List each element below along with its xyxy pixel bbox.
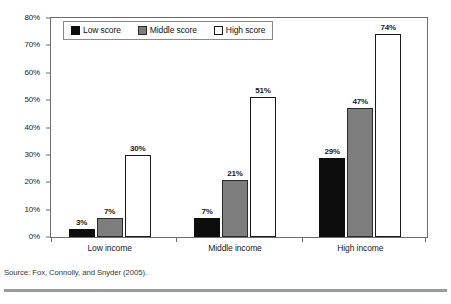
bar-slot: 7% <box>194 18 220 237</box>
y-axis-tick-label: 10% <box>25 206 40 214</box>
legend-item-middle[interactable]: Middle score <box>138 26 197 35</box>
bar-value-label: 29% <box>325 147 340 156</box>
bar-slot: 30% <box>125 18 151 237</box>
x-axis-tick-mark <box>51 238 52 242</box>
legend-item-low[interactable]: Low score <box>71 26 121 35</box>
x-axis-category-middle-income: Middle income <box>208 243 262 253</box>
legend-swatch-high-icon <box>214 26 223 35</box>
bar-low-middle-income[interactable] <box>194 218 220 237</box>
bar-low-high-income[interactable] <box>319 158 345 237</box>
bars-container: 3%7%30%7%21%51%29%47%74% <box>51 18 427 237</box>
bar-high-high-income[interactable] <box>375 34 401 237</box>
legend-swatch-low-icon <box>71 26 80 35</box>
x-axis-tick-mark <box>425 238 426 242</box>
bar-middle-low-income[interactable] <box>97 218 123 237</box>
legend-item-high[interactable]: High score <box>214 26 266 35</box>
y-axis-tick-label: 50% <box>25 96 40 104</box>
bar-low-low-income[interactable] <box>69 229 95 237</box>
bar-slot: 51% <box>250 18 276 237</box>
bar-value-label: 21% <box>227 169 242 178</box>
legend-label: Middle score <box>150 26 197 35</box>
y-axis-tick-label: 70% <box>25 41 40 49</box>
chart-legend: Low scoreMiddle scoreHigh score <box>63 21 273 40</box>
bar-value-label: 74% <box>381 23 396 32</box>
x-axis-labels: Low incomeMiddle incomeHigh income <box>50 243 428 257</box>
legend-swatch-middle-icon <box>138 26 147 35</box>
bar-value-label: 30% <box>130 144 145 153</box>
x-axis-tick-mark <box>302 238 303 242</box>
bar-slot: 29% <box>319 18 345 237</box>
y-axis-tick-label: 60% <box>25 69 40 77</box>
y-axis-tick-label: 0% <box>29 233 40 241</box>
x-axis-category-low-income: Low income <box>87 243 131 253</box>
bar-value-label: 7% <box>104 207 115 216</box>
bar-middle-middle-income[interactable] <box>222 180 248 237</box>
bar-group: 3%7%30% <box>51 18 176 237</box>
y-axis-tick-label: 20% <box>25 178 40 186</box>
x-axis-tick-mark <box>176 238 177 242</box>
bar-middle-high-income[interactable] <box>347 108 373 237</box>
bar-slot: 47% <box>347 18 373 237</box>
bar-slot: 74% <box>375 18 401 237</box>
bar-slot: 21% <box>222 18 248 237</box>
bar-value-label: 47% <box>353 97 368 106</box>
y-axis-tick-label: 30% <box>25 151 40 159</box>
y-axis: 0%10%20%30%40%50%60%70%80% <box>0 17 46 238</box>
y-axis-tick-label: 80% <box>25 14 40 22</box>
bar-group: 7%21%51% <box>176 18 301 237</box>
x-axis-category-high-income: High income <box>337 243 383 253</box>
y-axis-tick-label: 40% <box>25 124 40 132</box>
bar-high-middle-income[interactable] <box>250 97 276 237</box>
bar-group: 29%47%74% <box>302 18 427 237</box>
bar-value-label: 7% <box>201 207 212 216</box>
bottom-rule <box>4 289 447 292</box>
source-note: Source: Fox, Connolly, and Snyder (2005)… <box>4 268 147 278</box>
chart-figure: 0%10%20%30%40%50%60%70%80% 3%7%30%7%21%5… <box>0 0 451 304</box>
bar-value-label: 3% <box>76 218 87 227</box>
bar-slot: 3% <box>69 18 95 237</box>
legend-label: High score <box>226 26 266 35</box>
bar-value-label: 51% <box>255 86 270 95</box>
bar-high-low-income[interactable] <box>125 155 151 237</box>
legend-label: Low score <box>83 26 121 35</box>
bar-slot: 7% <box>97 18 123 237</box>
